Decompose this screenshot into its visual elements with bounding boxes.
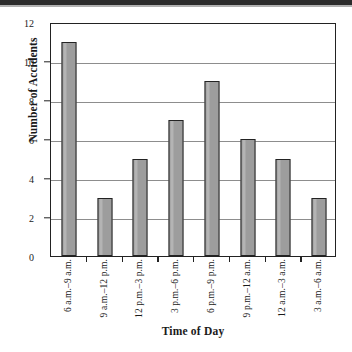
bar-group — [51, 24, 335, 256]
y-axis-tick-label: 4 — [4, 174, 34, 185]
bar-highlight — [63, 43, 66, 256]
y-axis-tick-group: 121086420 — [0, 0, 50, 257]
bar[interactable] — [240, 139, 255, 256]
plot-area — [50, 23, 336, 257]
x-axis-title: Time of Day — [50, 325, 336, 337]
bar[interactable] — [133, 159, 148, 257]
bar-slot — [230, 24, 266, 256]
x-axis-tick-label: 3 a.m.–6 a.m. — [313, 259, 323, 312]
bar-slot — [87, 24, 123, 256]
y-axis-tick-label: 6 — [4, 135, 34, 146]
y-axis-tick-label: 2 — [4, 213, 34, 224]
x-axis-label-group: 6 a.m.–9 a.m.9 a.m.–12 p.m.12 p.m.–3 p.m… — [50, 259, 336, 319]
bar[interactable] — [61, 42, 76, 257]
x-axis-tick-label: 9 p.m.–12 a.m. — [242, 259, 252, 317]
x-axis-tick-label: 6 p.m.–9 p.m. — [206, 259, 216, 313]
x-axis-tick-label: 12 p.m.–3 p.m. — [134, 259, 144, 318]
bar-highlight — [314, 199, 317, 256]
accidents-by-time-of-day-bar-chart: Number of Accidents 121086420 6 a.m.–9 a… — [0, 0, 352, 352]
bar-slot — [158, 24, 194, 256]
bar[interactable] — [204, 81, 219, 257]
bar-slot — [123, 24, 159, 256]
y-axis-tick-label: 12 — [4, 18, 34, 29]
bar-highlight — [135, 160, 138, 256]
bar[interactable] — [169, 120, 184, 257]
bar-slot — [194, 24, 230, 256]
bar-highlight — [278, 160, 281, 256]
bar-highlight — [206, 82, 209, 256]
bar-highlight — [171, 121, 174, 256]
y-axis-tick-label: 10 — [4, 57, 34, 68]
bar-slot — [301, 24, 337, 256]
x-axis-label-slot: 3 p.m.–6 p.m. — [157, 259, 193, 319]
bar-slot — [51, 24, 87, 256]
x-axis-tick-label: 12 a.m.–3 a.m. — [277, 259, 287, 317]
bar[interactable] — [276, 159, 291, 257]
bar-slot — [266, 24, 302, 256]
bar-highlight — [242, 140, 245, 255]
scan-artifact-band-secondary — [0, 5, 352, 7]
y-axis-tick-label: 0 — [4, 252, 34, 263]
x-axis-label-slot: 6 a.m.–9 a.m. — [50, 259, 86, 319]
x-axis-label-slot: 12 a.m.–3 a.m. — [265, 259, 301, 319]
y-axis-tick-label: 8 — [4, 96, 34, 107]
x-axis-label-slot: 12 p.m.–3 p.m. — [122, 259, 158, 319]
bar[interactable] — [312, 198, 327, 257]
bar[interactable] — [97, 198, 112, 257]
x-axis-label-slot: 3 a.m.–6 a.m. — [300, 259, 336, 319]
x-axis-label-slot: 6 p.m.–9 p.m. — [193, 259, 229, 319]
x-axis-tick-label: 9 a.m.–12 p.m. — [99, 259, 109, 317]
bar-highlight — [99, 199, 102, 256]
x-axis-tick-label: 6 a.m.–9 a.m. — [63, 259, 73, 312]
x-axis-tick-label: 3 p.m.–6 p.m. — [170, 259, 180, 313]
x-axis-label-slot: 9 a.m.–12 p.m. — [86, 259, 122, 319]
x-axis-label-slot: 9 p.m.–12 a.m. — [229, 259, 265, 319]
